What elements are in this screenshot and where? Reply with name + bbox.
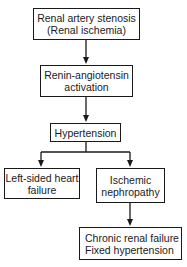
node-ischemic-nephropathy: Ischemic nephropathy bbox=[96, 168, 165, 203]
node-label: Ischemic bbox=[110, 174, 151, 186]
node-hypertension: Hypertension bbox=[50, 123, 121, 142]
node-label: Renal artery stenosis bbox=[37, 12, 136, 24]
node-label: nephropathy bbox=[101, 186, 159, 198]
node-renal-artery-stenosis: Renal artery stenosis (Renal ischemia) bbox=[33, 8, 140, 40]
node-label: Hypertension bbox=[55, 127, 117, 139]
node-label: (Renal ischemia) bbox=[47, 24, 126, 36]
node-label: failure bbox=[28, 184, 57, 196]
node-renin-angiotensin-activation: Renin-angiotensin activation bbox=[40, 65, 133, 97]
node-left-sided-heart-failure: Left-sided heart failure bbox=[4, 168, 80, 199]
node-label: activation bbox=[64, 81, 108, 93]
node-label: Renin-angiotensin bbox=[44, 69, 129, 81]
node-label: Left-sided heart bbox=[6, 172, 79, 184]
node-chronic-renal-failure: Chronic renal failure Fixed hypertension bbox=[79, 227, 182, 260]
node-label: Chronic renal failure bbox=[85, 232, 179, 244]
node-label: Fixed hypertension bbox=[85, 244, 174, 256]
